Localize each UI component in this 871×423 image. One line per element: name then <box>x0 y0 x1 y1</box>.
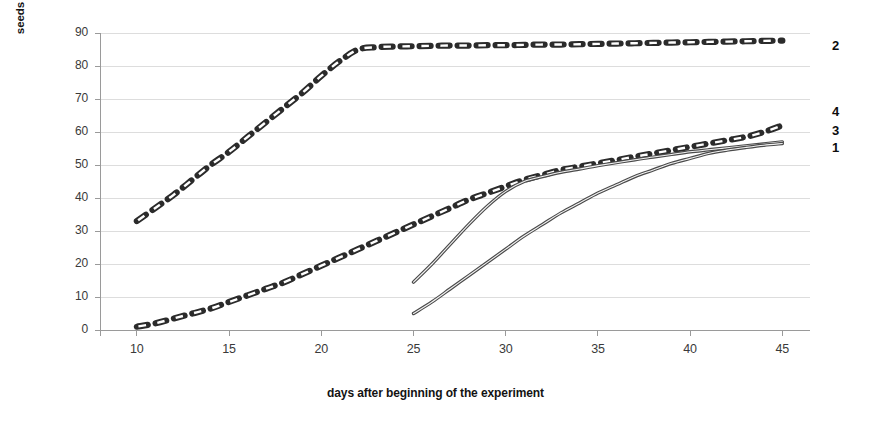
y-tick-label: 90 <box>48 25 88 39</box>
series-line-core-2 <box>137 41 782 222</box>
series-edge-label-2: 2 <box>832 38 858 53</box>
series-line-4 <box>414 144 783 314</box>
y-tick-label: 40 <box>48 190 88 204</box>
series-edge-label-3: 3 <box>832 123 858 138</box>
series-line-3 <box>414 142 783 282</box>
series-edge-label-1: 1 <box>832 140 858 155</box>
x-tick-label: 25 <box>392 342 436 356</box>
x-axis-title: days after beginning of the experiment <box>0 386 871 400</box>
y-tick-label: 50 <box>48 157 88 171</box>
x-tick-label: 15 <box>207 342 251 356</box>
chart-root: seeds germination, % 0102030405060708090… <box>0 0 871 423</box>
x-tick-label: 20 <box>299 342 343 356</box>
series-line-core-1 <box>137 125 782 326</box>
y-tick-label: 0 <box>48 322 88 336</box>
y-tick-label: 60 <box>48 124 88 138</box>
y-tick-label: 10 <box>48 289 88 303</box>
y-tick-label: 80 <box>48 58 88 72</box>
series-line-core-4 <box>414 144 783 314</box>
series-line-2 <box>137 41 782 222</box>
x-tick-label: 40 <box>668 342 712 356</box>
x-tick-label: 10 <box>115 342 159 356</box>
x-tick-label: 45 <box>760 342 804 356</box>
plot-area <box>0 0 871 423</box>
series-line-1 <box>137 125 782 326</box>
y-tick-label: 30 <box>48 223 88 237</box>
y-tick-label: 70 <box>48 91 88 105</box>
series-line-core-3 <box>414 142 783 282</box>
x-tick-label: 30 <box>484 342 528 356</box>
series-edge-label-4: 4 <box>832 104 858 119</box>
y-tick-label: 20 <box>48 256 88 270</box>
x-tick-label: 35 <box>576 342 620 356</box>
